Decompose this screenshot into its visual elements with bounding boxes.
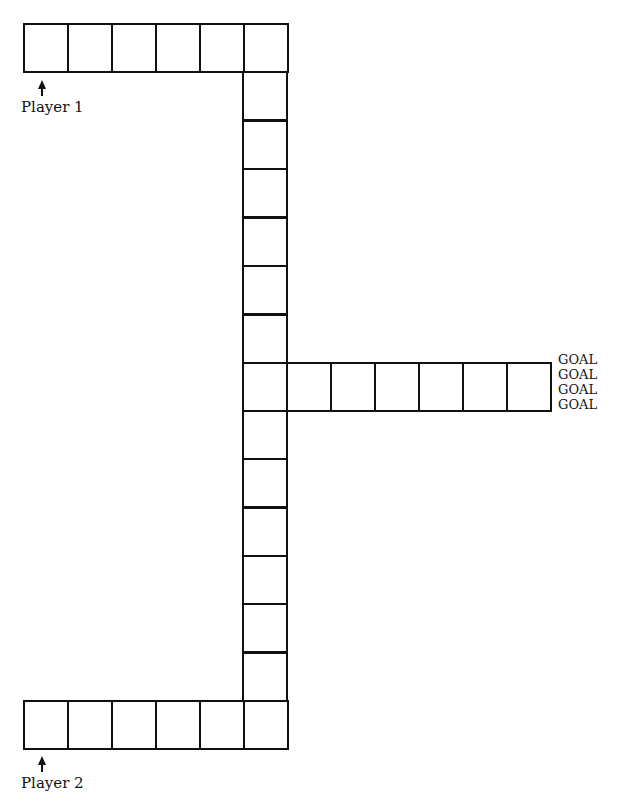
- goal-path-square: [462, 362, 508, 412]
- goal-label: GOAL: [558, 352, 597, 367]
- bottom-row-square: [111, 700, 157, 750]
- top-row-square: [67, 23, 113, 73]
- top-row-square: [111, 23, 157, 73]
- column-square: [242, 217, 288, 267]
- top-row-square: [199, 23, 245, 73]
- column-square: [242, 555, 288, 605]
- column-square: [242, 458, 288, 508]
- player2-label: Player 2: [21, 774, 84, 792]
- column-square: [242, 120, 288, 170]
- goal-path-square: [418, 362, 464, 412]
- column-square: [242, 168, 288, 218]
- column-square: [242, 265, 288, 315]
- junction-square: [242, 362, 288, 412]
- column-square: [242, 603, 288, 653]
- top-row-square: [23, 23, 69, 73]
- bottom-row-square: [23, 700, 69, 750]
- column-square: [242, 410, 288, 460]
- goal-path-square: [506, 362, 552, 412]
- bottom-row-square: [67, 700, 113, 750]
- top-row-square: [243, 23, 289, 73]
- column-square: [242, 507, 288, 557]
- bottom-row-square: [155, 700, 201, 750]
- goal-path-square: [374, 362, 420, 412]
- bottom-row-square: [243, 700, 289, 750]
- column-square: [242, 71, 288, 121]
- goal-path-square: [286, 362, 332, 412]
- column-square: [242, 314, 288, 364]
- column-square: [242, 652, 288, 702]
- bottom-row-square: [199, 700, 245, 750]
- player1-label: Player 1: [21, 98, 84, 116]
- goal-label: GOAL: [558, 367, 597, 382]
- goal-path-square: [330, 362, 376, 412]
- top-row-square: [155, 23, 201, 73]
- goal-label: GOAL: [558, 397, 597, 412]
- goal-labels: GOAL GOAL GOAL GOAL: [558, 352, 597, 412]
- goal-label: GOAL: [558, 382, 597, 397]
